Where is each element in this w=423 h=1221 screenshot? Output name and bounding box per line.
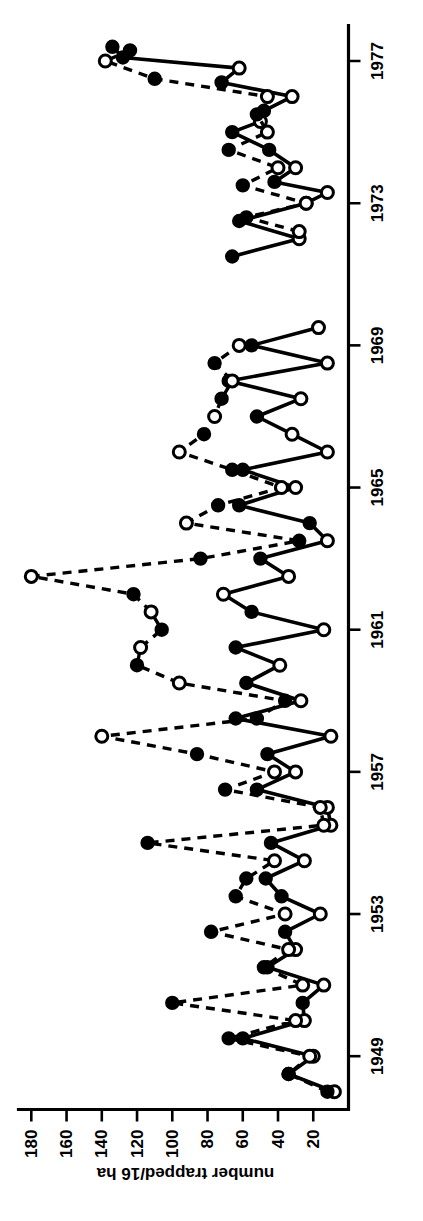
filled-circle-marker [166, 996, 178, 1008]
filled-circle-marker [148, 72, 160, 84]
open-circle-marker [95, 730, 107, 742]
open-circle-marker [317, 979, 329, 991]
open-circle-marker [317, 819, 329, 831]
y-axis-tick-label: 140 [92, 1129, 111, 1157]
filled-circle-marker [254, 552, 266, 564]
open-circle-marker [321, 534, 333, 546]
open-circle-marker [314, 801, 326, 813]
open-circle-marker [294, 694, 306, 706]
open-circle-marker [321, 186, 333, 198]
filled-circle-marker [250, 108, 262, 120]
x-axis-tick-label: 1973 [367, 184, 386, 222]
open-circle-marker [268, 854, 280, 866]
x-axis-tick-label: 1977 [367, 42, 386, 80]
open-circle-marker [312, 321, 324, 333]
filled-circle-marker [226, 463, 238, 475]
open-circle-marker [217, 588, 229, 600]
open-circle-marker [293, 225, 305, 237]
filled-circle-marker [278, 925, 290, 937]
y-axis-tick-label: 120 [127, 1129, 146, 1157]
open-circle-marker [233, 339, 245, 351]
filled-circle-marker [218, 783, 230, 795]
open-circle-marker [286, 90, 298, 102]
open-circle-marker [300, 197, 312, 209]
open-circle-marker [180, 517, 192, 529]
x-axis-tick-label: 1957 [367, 752, 386, 790]
x-axis-tick-label: 1961 [367, 610, 386, 648]
open-circle-marker [134, 641, 146, 653]
open-circle-marker [321, 357, 333, 369]
filled-circle-marker [211, 499, 223, 511]
y-axis-tick-label: 40 [268, 1129, 287, 1148]
filled-circle-marker [229, 641, 241, 653]
open-circle-marker [317, 623, 329, 635]
filled-circle-marker [278, 694, 290, 706]
filled-circle-marker [127, 588, 139, 600]
filled-circle-marker [155, 623, 167, 635]
open-circle-marker [25, 570, 37, 582]
filled-circle-marker [123, 44, 135, 56]
filled-circle-marker [275, 890, 287, 902]
y-axis-tick-label: 180 [21, 1129, 40, 1157]
labels-group: 2040608010012014016018019491953195719611… [21, 42, 386, 1158]
filled-circle-marker [240, 676, 252, 688]
filled-circle-marker [296, 996, 308, 1008]
filled-circle-marker [250, 410, 262, 422]
filled-circle-marker [106, 40, 118, 52]
x-axis-tick-label: 1969 [367, 326, 386, 364]
filled-circle-marker [245, 605, 257, 617]
open-circle-marker [303, 1050, 315, 1062]
filled-circle-marker [263, 143, 275, 155]
open-circle-marker [226, 374, 238, 386]
filled-circle-marker [215, 76, 227, 88]
open-circle-marker [268, 765, 280, 777]
line-chart: 2040608010012014016018019491953195719611… [0, 0, 423, 1221]
open-circle-marker [173, 446, 185, 458]
y-axis-tick-label: 80 [198, 1129, 217, 1148]
filled-circle-marker [226, 250, 238, 262]
filled-circle-marker [141, 836, 153, 848]
y-axis-tick-label: 160 [57, 1129, 76, 1157]
filled-circle-marker [240, 211, 252, 223]
filled-circle-marker [197, 428, 209, 440]
filled-circle-marker [222, 143, 234, 155]
open-circle-marker [173, 677, 185, 689]
open-circle-marker [289, 1014, 301, 1026]
filled-circle-marker [229, 890, 241, 902]
y-axis-tick-label: 60 [233, 1129, 252, 1148]
y-axis-tick-label: 20 [303, 1129, 322, 1148]
open-circle-marker [233, 62, 245, 74]
filled-circle-marker [293, 534, 305, 546]
open-circle-marker [294, 392, 306, 404]
y-axis-title: number trapped/16 ha [96, 1163, 274, 1182]
x-axis-tick-label: 1953 [367, 895, 386, 933]
figure-canvas: 2040608010012014016018019491953195719611… [0, 0, 423, 1221]
open-circle-marker [275, 481, 287, 493]
open-circle-marker [279, 908, 291, 920]
filled-circle-marker [215, 392, 227, 404]
open-circle-marker [321, 446, 333, 458]
rotated-figure-inner: 2040608010012014016018019491953195719611… [0, 0, 423, 1221]
filled-circle-marker [257, 961, 269, 973]
filled-circle-marker [261, 747, 273, 759]
filled-circle-marker [240, 872, 252, 884]
open-circle-marker [324, 730, 336, 742]
filled-circle-marker [303, 516, 315, 528]
open-circle-marker [272, 161, 284, 173]
filled-circle-marker [259, 872, 271, 884]
open-circle-marker [289, 765, 301, 777]
open-circle-marker [282, 943, 294, 955]
filled-circle-marker [222, 1032, 234, 1044]
filled-circle-marker [236, 179, 248, 191]
y-axis-tick-label: 100 [162, 1129, 181, 1157]
open-circle-marker [99, 55, 111, 67]
open-circle-marker [282, 570, 294, 582]
open-circle-marker [145, 605, 157, 617]
open-circle-marker [261, 126, 273, 138]
filled-circle-marker [130, 659, 142, 671]
open-circle-marker [289, 161, 301, 173]
x-axis-tick-label: 1965 [367, 468, 386, 506]
filled-circle-marker [245, 339, 257, 351]
filled-circle-marker [190, 747, 202, 759]
dashed-series-line [105, 50, 306, 231]
